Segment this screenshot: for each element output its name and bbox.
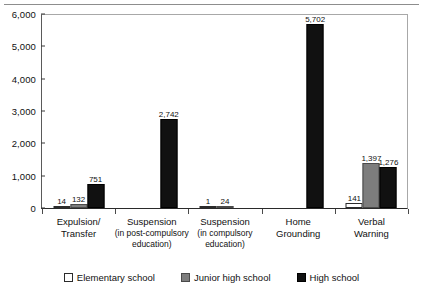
legend-item[interactable]: Elementary school [64, 272, 155, 283]
y-axis-tick-label: 2,000 [12, 138, 41, 149]
bar-group-inner: 14132751 [53, 14, 104, 208]
bar-group: 2,742 [115, 14, 188, 208]
plot-wrapper: 01,0002,0003,0004,0005,0006,000 14132751… [0, 10, 423, 215]
x-axis-separators [41, 209, 408, 215]
bar-group: 1411,3971,276 [335, 14, 408, 208]
bar-high[interactable]: 1,276 [380, 167, 397, 208]
legend-item[interactable]: Junior high school [181, 272, 271, 283]
legend-swatch-elementary [64, 273, 73, 282]
y-axis-tick-label: 5,000 [12, 41, 41, 52]
legend-swatch-high [297, 273, 306, 282]
x-axis-separator-tick [115, 209, 116, 214]
bar-value-label: 2,742 [159, 110, 179, 119]
bar-group: 124 [188, 14, 261, 208]
bar-value-label: 24 [221, 197, 230, 206]
y-axis-tick-label: 6,000 [12, 9, 41, 20]
bar-value-label: 5,702 [305, 15, 325, 24]
bar-value-label: 14 [57, 197, 66, 206]
bar-junior[interactable]: 132 [70, 204, 87, 208]
bar-value-label: 1 [206, 197, 210, 206]
y-axis-tick-label: 1,000 [12, 170, 41, 181]
legend-swatch-junior [181, 273, 190, 282]
x-axis-separator-tick [408, 209, 409, 214]
category-label-line-2: Warning [327, 228, 416, 240]
legend-label: High school [310, 272, 360, 283]
legend-label: Junior high school [194, 272, 271, 283]
bar-group-inner: 2,742 [126, 14, 177, 208]
x-axis-separator-tick [262, 209, 263, 214]
bar-value-label: 1,276 [378, 158, 398, 167]
legend-item[interactable]: High school [297, 272, 360, 283]
bar-value-label: 132 [72, 195, 85, 204]
legend-label: Elementary school [77, 272, 155, 283]
x-axis-separator-tick [335, 209, 336, 214]
bars-layer: 141327512,7421245,7021411,3971,276 [42, 14, 408, 208]
bar-value-label: 751 [89, 175, 102, 184]
category-label-line-3: education) [180, 239, 269, 251]
bar-value-label: 141 [348, 194, 361, 203]
bar-chart-figure: 01,0002,0003,0004,0005,0006,000 14132751… [0, 0, 423, 297]
y-axis-tick-label: 3,000 [12, 106, 41, 117]
x-axis-category-label: VerbalWarning [327, 216, 416, 239]
bar-high[interactable]: 751 [87, 184, 104, 208]
x-axis-category-labels: Expulsion/TransferSuspension(in post-com… [42, 216, 408, 264]
y-axis-tick-label: 4,000 [12, 73, 41, 84]
bar-elementary[interactable]: 141 [346, 203, 363, 208]
bar-group: 14132751 [42, 14, 115, 208]
y-axis-tick-label: 0 [31, 203, 41, 214]
bar-high[interactable]: 2,742 [160, 119, 177, 208]
bar-junior[interactable]: 1,397 [363, 163, 380, 208]
x-axis-separator-tick [188, 209, 189, 214]
top-divider-rule [4, 4, 419, 5]
bar-elementary[interactable]: 1 [199, 206, 216, 208]
bar-group-inner: 1411,3971,276 [346, 14, 397, 208]
bar-elementary[interactable]: 14 [53, 206, 70, 208]
bar-high[interactable]: 5,702 [307, 24, 324, 208]
chart-legend: Elementary schoolJunior high schoolHigh … [0, 272, 423, 283]
x-axis-separator-tick [42, 209, 43, 214]
bar-group-inner: 124 [199, 14, 250, 208]
bar-group-inner: 5,702 [273, 14, 324, 208]
category-label-line-1: Verbal [327, 216, 416, 228]
bar-group: 5,702 [262, 14, 335, 208]
bar-junior[interactable]: 24 [216, 206, 233, 208]
